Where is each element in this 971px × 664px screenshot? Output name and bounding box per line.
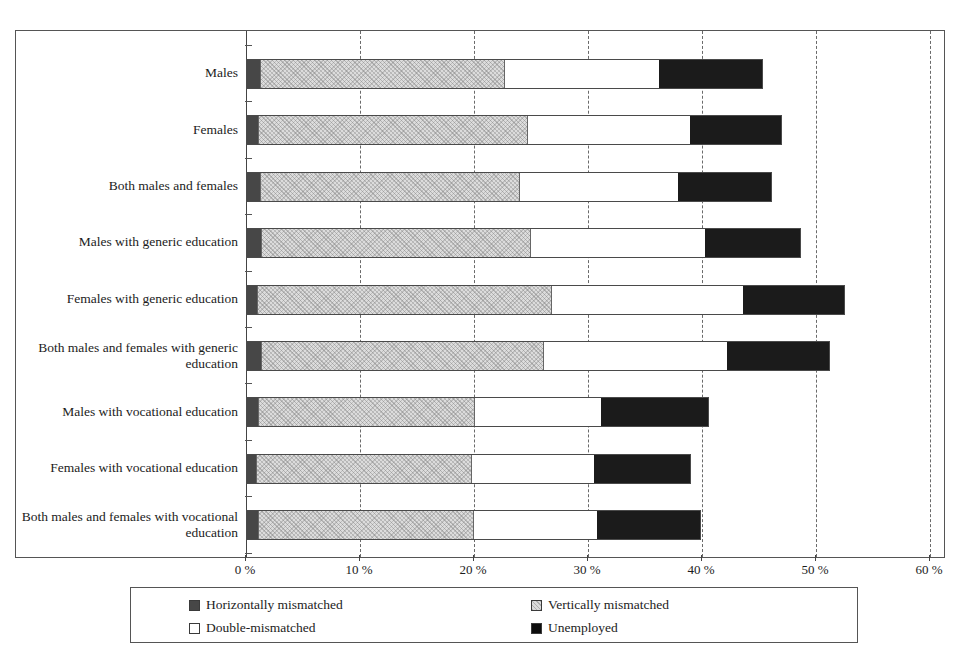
bar-segment-unemp[interactable] — [594, 455, 690, 483]
y-axis-tick — [245, 101, 252, 102]
bar-segment-vert[interactable] — [256, 455, 472, 483]
bar-segment-dbl[interactable] — [531, 229, 705, 257]
bar-segment-vert[interactable] — [260, 173, 521, 201]
stacked-bar[interactable] — [246, 115, 782, 145]
x-axis-tick-label: 60 % — [915, 562, 942, 578]
stacked-bar[interactable] — [246, 285, 845, 315]
x-axis-tick-label: 40 % — [687, 562, 714, 578]
gridline-60 — [930, 31, 931, 557]
x-axis-tick — [359, 555, 360, 561]
bar-segment-vert[interactable] — [258, 398, 474, 426]
category-label: Both males and females with vocational e… — [20, 509, 238, 540]
bar-segment-unemp[interactable] — [597, 511, 701, 539]
stacked-bar[interactable] — [246, 397, 709, 427]
bar-segment-vert[interactable] — [258, 116, 528, 144]
bar-row — [246, 45, 930, 103]
category-label: Both males and females with generic educ… — [20, 340, 238, 371]
stacked-bar[interactable] — [246, 59, 763, 89]
bar-row — [246, 327, 930, 385]
chart-legend: Horizontally mismatchedVertically mismat… — [130, 587, 858, 643]
bar-segment-unemp[interactable] — [727, 342, 830, 370]
bar-row — [246, 383, 930, 441]
bar-segment-unemp[interactable] — [601, 398, 708, 426]
bar-segment-unemp[interactable] — [659, 60, 762, 88]
legend-label: Unemployed — [548, 620, 618, 636]
category-label: Males with vocational education — [20, 404, 238, 420]
bar-segment-vert[interactable] — [261, 342, 545, 370]
x-axis-tick — [245, 555, 246, 561]
bar-segment-unemp[interactable] — [743, 286, 844, 314]
bar-segment-vert[interactable] — [257, 286, 552, 314]
legend-label: Vertically mismatched — [548, 597, 669, 613]
y-axis-tick — [245, 271, 252, 272]
stacked-bar[interactable] — [246, 454, 691, 484]
bar-segment-horiz[interactable] — [247, 455, 256, 483]
x-axis-tick-label: 0 % — [235, 562, 256, 578]
bar-segment-dbl[interactable] — [475, 398, 602, 426]
bar-segment-vert[interactable] — [261, 229, 531, 257]
bar-row — [246, 271, 930, 329]
y-axis-tick — [245, 383, 252, 384]
bar-segment-horiz[interactable] — [247, 229, 261, 257]
bar-segment-horiz[interactable] — [247, 60, 260, 88]
bar-segment-horiz[interactable] — [247, 173, 260, 201]
bar-segment-horiz[interactable] — [247, 286, 257, 314]
stacked-bar[interactable] — [246, 341, 830, 371]
x-axis-tick — [929, 555, 930, 561]
bar-segment-vert[interactable] — [258, 511, 473, 539]
bar-segment-dbl[interactable] — [552, 286, 742, 314]
category-label: Females with generic education — [20, 291, 238, 307]
legend-item[interactable]: Horizontally mismatched — [189, 597, 343, 613]
bar-segment-unemp[interactable] — [678, 173, 771, 201]
bar-segment-dbl[interactable] — [472, 455, 594, 483]
bar-segment-unemp[interactable] — [705, 229, 800, 257]
stacked-bar[interactable] — [246, 510, 701, 540]
bar-segment-horiz[interactable] — [247, 398, 258, 426]
legend-item[interactable]: Unemployed — [531, 620, 618, 636]
bar-row — [246, 101, 930, 159]
bar-segment-horiz[interactable] — [247, 511, 258, 539]
bar-segment-horiz[interactable] — [247, 342, 261, 370]
x-axis-tick — [587, 555, 588, 561]
bar-row — [246, 214, 930, 272]
plot-area — [246, 31, 930, 557]
y-axis-tick — [245, 214, 252, 215]
bar-segment-dbl[interactable] — [528, 116, 690, 144]
bar-segment-horiz[interactable] — [247, 116, 258, 144]
bar-segment-dbl[interactable] — [474, 511, 597, 539]
legend-item[interactable]: Double-mismatched — [189, 620, 315, 636]
category-label: Both males and females — [20, 178, 238, 194]
category-label: Females — [20, 122, 238, 138]
legend-label: Horizontally mismatched — [206, 597, 343, 613]
dark-gray-swatch — [189, 600, 200, 611]
x-axis-tick-label: 30 % — [573, 562, 600, 578]
category-label: Males — [20, 65, 238, 81]
bar-row — [246, 158, 930, 216]
y-axis-tick — [245, 327, 252, 328]
y-axis-tick — [245, 553, 252, 554]
legend-item[interactable]: Vertically mismatched — [531, 597, 669, 613]
black-swatch — [531, 623, 542, 634]
bar-segment-dbl[interactable] — [520, 173, 677, 201]
bar-row — [246, 440, 930, 498]
x-axis-tick-label: 50 % — [801, 562, 828, 578]
category-label: Males with generic education — [20, 235, 238, 251]
bar-row — [246, 496, 930, 554]
bar-segment-dbl[interactable] — [544, 342, 726, 370]
bar-segment-vert[interactable] — [260, 60, 506, 88]
y-axis-tick — [245, 440, 252, 441]
legend-label: Double-mismatched — [206, 620, 315, 636]
chart-page: { "chart_data": { "type": "bar", "orient… — [0, 0, 971, 664]
white-swatch — [189, 623, 200, 634]
y-axis-tick — [245, 158, 252, 159]
x-axis-tick — [815, 555, 816, 561]
x-axis-tick — [473, 555, 474, 561]
bar-segment-dbl[interactable] — [505, 60, 659, 88]
stacked-bar[interactable] — [246, 172, 772, 202]
bar-segment-unemp[interactable] — [690, 116, 781, 144]
chart-plot-frame: MalesFemalesBoth males and femalesMales … — [15, 30, 945, 558]
x-axis-tick-label: 20 % — [459, 562, 486, 578]
y-axis-tick — [245, 496, 252, 497]
stacked-bar[interactable] — [246, 228, 801, 258]
light-gray-swatch — [531, 600, 542, 611]
